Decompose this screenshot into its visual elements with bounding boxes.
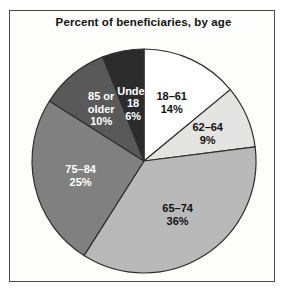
figure-panel: Percent of beneficiaries, by age 18–6114… [0,0,287,292]
pie-chart [0,0,287,292]
pie-slice-group [32,49,256,273]
